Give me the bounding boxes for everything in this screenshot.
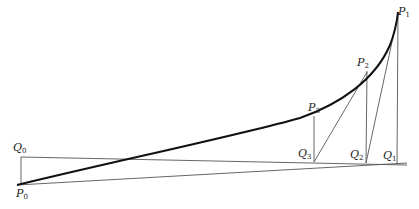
label-p2: P2 xyxy=(357,57,369,70)
label-q2: Q2 xyxy=(350,149,364,162)
label-p3: P3 xyxy=(308,102,320,115)
lower-line-p0 xyxy=(17,163,407,185)
label-p0: P0 xyxy=(16,188,28,201)
curve xyxy=(17,12,398,185)
label-q1: Q1 xyxy=(383,150,397,163)
segment-p2-q2 xyxy=(366,71,367,163)
label-p1: P1 xyxy=(398,6,410,19)
diagram-canvas: P1 P2 P3 P0 Q0 Q1 Q2 Q3 xyxy=(0,0,419,209)
diagram-svg xyxy=(0,0,419,209)
label-q0: Q0 xyxy=(13,142,27,155)
segment-p1-q1 xyxy=(397,12,398,164)
label-q3: Q3 xyxy=(298,148,312,161)
